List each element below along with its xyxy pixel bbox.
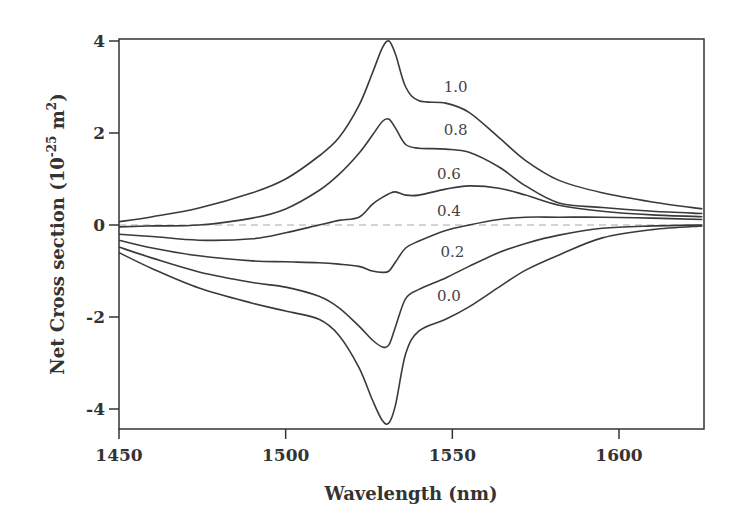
- series-label-0-2: 0.2: [440, 243, 464, 261]
- y-tick-label: -4: [86, 399, 105, 419]
- series-label-0-0: 0.0: [437, 287, 461, 305]
- y-tick-label: 2: [93, 123, 105, 143]
- series-curve-0-6: [119, 186, 702, 240]
- y-axis: 420-2-4: [86, 31, 119, 419]
- series-label-1-0: 1.0: [444, 78, 468, 96]
- chart: 1.00.80.60.40.20.0 1450150015501600 420-…: [0, 0, 734, 531]
- plot-area: 1.00.80.60.40.20.0: [119, 41, 704, 425]
- y-tick-label: 0: [93, 215, 105, 235]
- series-label-0-4: 0.4: [437, 202, 461, 220]
- x-tick-label: 1600: [595, 445, 642, 465]
- series-curve-0-0: [119, 226, 702, 424]
- y-tick-label: 4: [93, 31, 105, 51]
- plot-frame: [119, 39, 704, 429]
- y-axis-title: Net Cross section (10-25 m2): [45, 93, 68, 374]
- series-curve-0-8: [119, 119, 702, 227]
- x-tick-label: 1500: [262, 445, 309, 465]
- x-tick-label: 1450: [95, 445, 142, 465]
- series-curve-0-2: [119, 225, 702, 347]
- series-curve-1-0: [119, 41, 702, 222]
- y-tick-label: -2: [86, 307, 105, 327]
- x-tick-label: 1550: [429, 445, 476, 465]
- x-axis-title: Wavelength (nm): [323, 483, 497, 504]
- series-label-0-8: 0.8: [444, 121, 468, 139]
- series-label-0-6: 0.6: [437, 165, 461, 183]
- x-axis: 1450150015501600: [95, 429, 642, 465]
